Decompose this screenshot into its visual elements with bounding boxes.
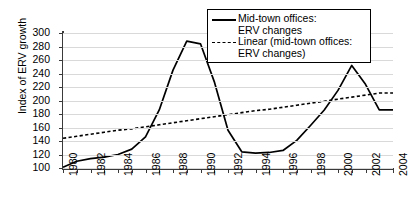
legend-label-line1: Mid-town offices: bbox=[238, 12, 317, 24]
x-tick-mark bbox=[283, 169, 284, 173]
legend-key-solid-icon bbox=[212, 13, 238, 21]
x-tick-mark bbox=[256, 169, 257, 173]
x-tick-label: 1990 bbox=[205, 153, 217, 176]
x-tick-label: 1998 bbox=[315, 153, 327, 176]
legend-label-line1: Linear (mid-town offices: bbox=[238, 35, 352, 47]
y-tick-mark bbox=[59, 87, 63, 88]
x-tick-mark bbox=[366, 169, 367, 173]
y-tick-mark bbox=[59, 155, 63, 156]
y-tick-mark bbox=[59, 60, 63, 61]
gridline bbox=[63, 101, 393, 102]
x-tick-mark bbox=[338, 169, 339, 173]
x-tick-mark bbox=[228, 169, 229, 173]
gridline bbox=[63, 87, 393, 88]
x-tick-mark bbox=[146, 169, 147, 173]
legend-key-dashed-icon bbox=[212, 36, 238, 43]
y-tick-mark bbox=[59, 101, 63, 102]
x-tick-mark bbox=[63, 169, 64, 173]
gridline bbox=[63, 114, 393, 115]
legend: Mid-town offices: ERV changes Linear (mi… bbox=[207, 9, 371, 63]
x-tick-label: 1980 bbox=[67, 153, 79, 176]
y-tick-mark bbox=[59, 47, 63, 48]
y-axis-tick-labels: 100120140160180200220240260280300 bbox=[22, 0, 50, 220]
x-tick-label: 2000 bbox=[342, 153, 354, 176]
legend-label: Mid-town offices: ERV changes bbox=[238, 13, 317, 36]
x-tick-label: 2002 bbox=[370, 153, 382, 176]
y-tick-label: 240 bbox=[24, 68, 50, 78]
x-tick-mark bbox=[393, 169, 394, 173]
y-tick-mark bbox=[59, 114, 63, 115]
x-tick-label: 1988 bbox=[177, 153, 189, 176]
gridline bbox=[63, 141, 393, 142]
x-tick-mark bbox=[91, 169, 92, 173]
x-tick-label: 1996 bbox=[287, 153, 299, 176]
x-tick-mark bbox=[173, 169, 174, 173]
x-tick-label: 1984 bbox=[122, 153, 134, 176]
gridline bbox=[63, 128, 393, 129]
x-tick-label: 2004 bbox=[397, 153, 409, 176]
y-tick-label: 160 bbox=[24, 122, 50, 132]
x-tick-mark bbox=[118, 169, 119, 173]
y-tick-label: 220 bbox=[24, 81, 50, 91]
y-tick-label: 120 bbox=[24, 149, 50, 159]
y-tick-mark bbox=[59, 128, 63, 129]
y-tick-label: 260 bbox=[24, 54, 50, 64]
y-tick-label: 100 bbox=[24, 162, 50, 172]
x-tick-label: 1994 bbox=[260, 153, 272, 176]
y-tick-mark bbox=[59, 141, 63, 142]
legend-item: Mid-town offices: ERV changes bbox=[212, 13, 366, 36]
y-tick-mark bbox=[59, 33, 63, 34]
x-tick-label: 1982 bbox=[95, 153, 107, 176]
x-tick-label: 1986 bbox=[150, 153, 162, 176]
x-tick-mark bbox=[201, 169, 202, 173]
y-tick-label: 180 bbox=[24, 108, 50, 118]
legend-label: Linear (mid-town offices: ERV changes) bbox=[238, 36, 352, 59]
y-tick-label: 140 bbox=[24, 135, 50, 145]
legend-label-line2: ERV changes) bbox=[238, 47, 306, 59]
gridline bbox=[63, 74, 393, 75]
y-tick-mark bbox=[59, 74, 63, 75]
y-tick-label: 300 bbox=[24, 27, 50, 37]
y-tick-label: 200 bbox=[24, 95, 50, 105]
x-tick-label: 1992 bbox=[232, 153, 244, 176]
legend-item: Linear (mid-town offices: ERV changes) bbox=[212, 36, 366, 59]
legend-label-line2: ERV changes bbox=[238, 24, 302, 36]
y-tick-label: 280 bbox=[24, 41, 50, 51]
x-tick-mark bbox=[311, 169, 312, 173]
